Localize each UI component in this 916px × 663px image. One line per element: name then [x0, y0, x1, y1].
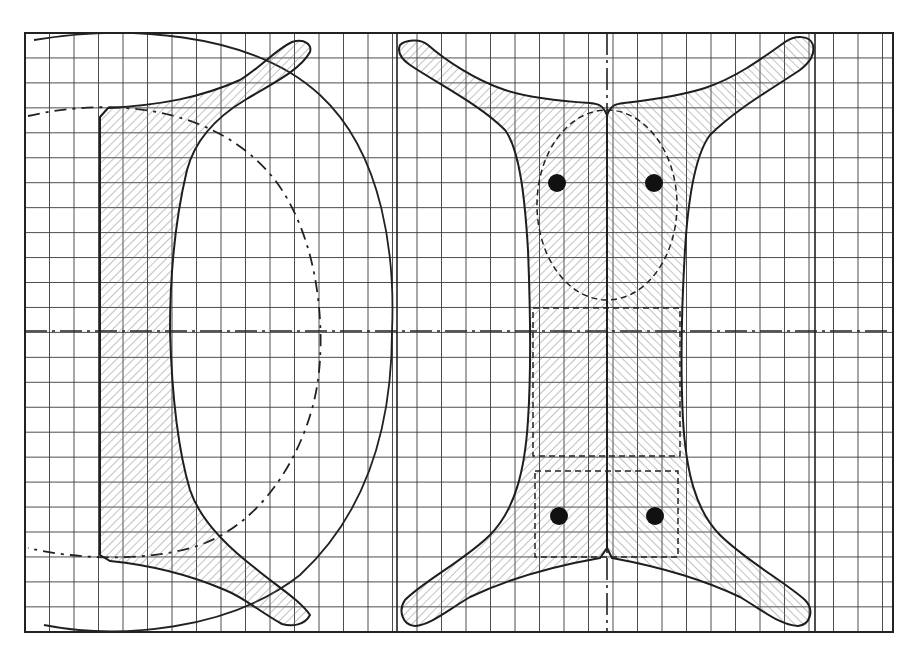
plan-left-half — [399, 40, 607, 626]
side-profile — [100, 41, 310, 625]
technical-drawing — [0, 0, 916, 663]
mounting-hole — [550, 507, 568, 525]
mounting-hole — [646, 507, 664, 525]
mounting-hole — [548, 174, 566, 192]
mounting-hole — [645, 174, 663, 192]
